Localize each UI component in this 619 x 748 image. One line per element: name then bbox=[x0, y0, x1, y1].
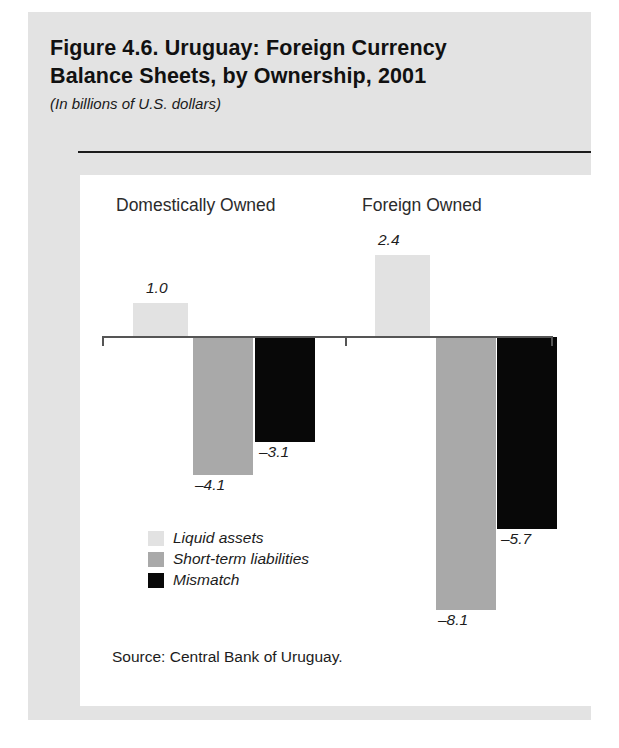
zero-axis-line bbox=[102, 336, 553, 338]
bar-foreign-short-term-liabilities bbox=[436, 337, 496, 610]
value-label-foreign-short-term-liabilities: –8.1 bbox=[438, 611, 468, 629]
group-label-foreign-owned: Foreign Owned bbox=[362, 195, 482, 216]
figure-panel: Figure 4.6. Uruguay: Foreign Currency Ba… bbox=[28, 12, 591, 720]
legend-swatch-liquid-assets bbox=[148, 531, 164, 546]
figure-header: Figure 4.6. Uruguay: Foreign Currency Ba… bbox=[50, 34, 570, 114]
value-label-domestic-short-term-liabilities: –4.1 bbox=[195, 476, 225, 494]
bar-foreign-mismatch bbox=[497, 337, 557, 529]
legend-swatch-short-term-liabilities bbox=[148, 552, 164, 567]
legend-label-short-term-liabilities: Short-term liabilities bbox=[173, 550, 309, 568]
group-label-domestically-owned: Domestically Owned bbox=[116, 195, 276, 216]
axis-tick-middle bbox=[345, 337, 347, 346]
axis-tick-left bbox=[102, 337, 104, 346]
source-note: Source: Central Bank of Uruguay. bbox=[112, 648, 343, 666]
value-label-domestic-liquid-assets: 1.0 bbox=[146, 279, 168, 297]
figure-subtitle: (In billions of U.S. dollars) bbox=[50, 94, 570, 114]
legend-item-liquid-assets: Liquid assets bbox=[148, 528, 309, 548]
bar-foreign-liquid-assets bbox=[375, 255, 430, 336]
value-label-foreign-mismatch: –5.7 bbox=[501, 530, 531, 548]
plot-area: Domestically Owned Foreign Owned 1.0 –4.… bbox=[80, 175, 591, 706]
axis-tick-right bbox=[551, 337, 553, 346]
header-divider-rule bbox=[78, 151, 591, 153]
legend-item-mismatch: Mismatch bbox=[148, 570, 309, 590]
figure-title: Figure 4.6. Uruguay: Foreign Currency Ba… bbox=[50, 34, 570, 90]
bar-domestic-liquid-assets bbox=[133, 303, 188, 336]
value-label-domestic-mismatch: –3.1 bbox=[259, 443, 289, 461]
legend-label-mismatch: Mismatch bbox=[173, 571, 239, 589]
value-label-foreign-liquid-assets: 2.4 bbox=[378, 231, 400, 249]
bar-domestic-short-term-liabilities bbox=[193, 337, 253, 475]
legend-label-liquid-assets: Liquid assets bbox=[173, 529, 263, 547]
legend-swatch-mismatch bbox=[148, 573, 164, 588]
bar-domestic-mismatch bbox=[255, 337, 315, 442]
chart-card: Domestically Owned Foreign Owned 1.0 –4.… bbox=[80, 175, 591, 706]
legend-item-short-term-liabilities: Short-term liabilities bbox=[148, 549, 309, 569]
legend: Liquid assets Short-term liabilities Mis… bbox=[148, 528, 309, 591]
